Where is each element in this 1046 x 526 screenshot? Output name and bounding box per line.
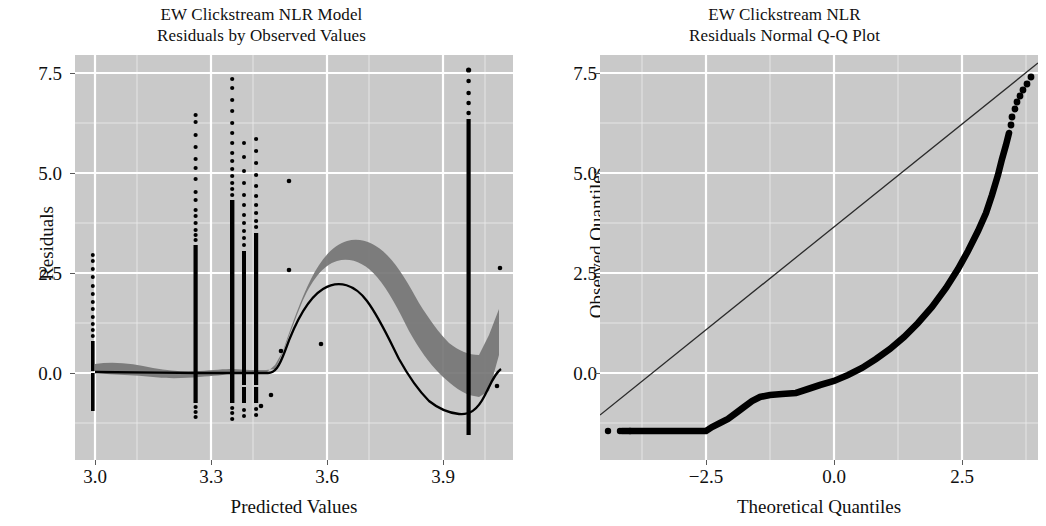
x-axis-label-theoretical-quantiles: Theoretical Quantiles: [600, 496, 1038, 518]
qq-lower-tail-points: [605, 428, 633, 434]
x-tick-label-neg-2-5: −2.5: [671, 466, 741, 488]
x-tickmark-neg-2-5: [706, 460, 707, 465]
plot-title-left: EW Clickstream NLR Model Residuals by Ob…: [0, 4, 523, 46]
y-tick-label-5-0: 5.0: [0, 163, 62, 185]
plot-area-right: [600, 55, 1038, 460]
y-tick-label-qq-5-0: 5.0: [533, 163, 597, 185]
plot-title-right-line2: Residuals Normal Q-Q Plot: [523, 25, 1046, 46]
panel-background-left: [75, 55, 513, 460]
x-tick-label-qq-2-5: 2.5: [927, 466, 997, 488]
x-tick-label-3-9: 3.9: [408, 466, 478, 488]
panel-normal-qq: EW Clickstream NLR Residuals Normal Q-Q …: [523, 0, 1046, 526]
y-axis-label-residuals: Residuals: [36, 163, 58, 323]
panel-residuals-by-observed: EW Clickstream NLR Model Residuals by Ob…: [0, 0, 523, 526]
x-tickmark-0-0: [834, 460, 835, 465]
y-tick-label-qq-2-5: 2.5: [533, 263, 597, 285]
plot-title-right-line1: EW Clickstream NLR: [708, 5, 861, 24]
x-tickmark-3-0: [95, 460, 96, 465]
y-tick-label-7-5: 7.5: [0, 63, 62, 85]
plot-area-left: [75, 55, 513, 460]
y-tick-label-2-5: 2.5: [0, 263, 62, 285]
x-tickmark-3-6: [327, 460, 328, 465]
plot-title-right: EW Clickstream NLR Residuals Normal Q-Q …: [523, 4, 1046, 46]
x-tickmark-2-5: [962, 460, 963, 465]
x-tick-label-3-0: 3.0: [60, 466, 130, 488]
y-tick-label-0-0: 0.0: [0, 363, 62, 385]
x-tick-label-3-3: 3.3: [176, 466, 246, 488]
y-tick-label-qq-0-0: 0.0: [533, 363, 597, 385]
x-tickmark-3-9: [443, 460, 444, 465]
x-tick-label-qq-0-0: 0.0: [799, 466, 869, 488]
x-tickmark-3-3: [211, 460, 212, 465]
chart-svg-qq: [600, 55, 1038, 460]
chart-svg-residuals: [75, 55, 513, 460]
plot-title-left-line1: EW Clickstream NLR Model: [161, 5, 363, 24]
x-tick-label-3-6: 3.6: [292, 466, 362, 488]
plot-title-left-line2: Residuals by Observed Values: [0, 25, 523, 46]
figure-residual-diagnostics: EW Clickstream NLR Model Residuals by Ob…: [0, 0, 1046, 526]
x-axis-label-predicted-values: Predicted Values: [75, 496, 513, 518]
y-tick-label-qq-7-5: 7.5: [533, 63, 597, 85]
